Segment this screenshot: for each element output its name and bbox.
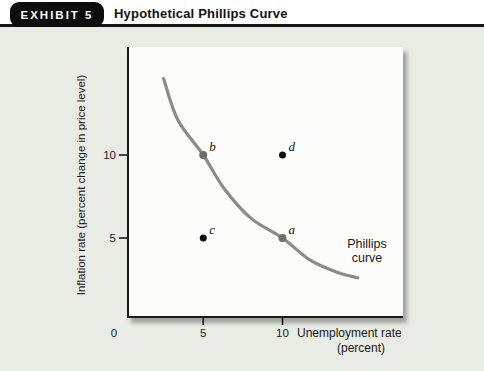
- curve-label: Phillips curve: [335, 237, 399, 266]
- exhibit-figure: EXHIBIT 5 Hypothetical Phillips Curve In…: [0, 0, 484, 371]
- x-axis-label: Unemployment rate: [297, 326, 402, 340]
- exhibit-badge-label: EXHIBIT 5: [21, 9, 94, 21]
- plot-area: [127, 47, 403, 318]
- x-axis-label-units: (percent): [337, 341, 385, 355]
- exhibit-title: Hypothetical Phillips Curve: [114, 6, 288, 21]
- exhibit-badge: EXHIBIT 5: [10, 2, 104, 27]
- y-axis-label: Inflation rate (percent change in price …: [75, 55, 91, 315]
